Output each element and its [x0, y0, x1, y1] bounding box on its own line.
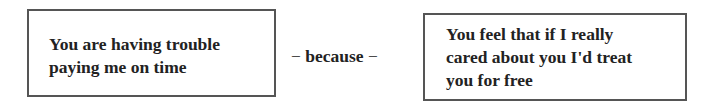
left-box-line-1: You are having trouble [49, 33, 274, 56]
right-box-line-3: you for free [446, 69, 685, 92]
right-box-line-1: You feel that if I really [446, 23, 685, 46]
statement-box-left: You are having trouble paying me on time [27, 9, 276, 97]
right-dash: − [368, 46, 378, 66]
statement-box-right: You feel that if I really cared about yo… [423, 13, 687, 101]
right-box-line-2: cared about you I'd treat [446, 46, 685, 69]
because-connector: − because − [291, 45, 378, 68]
connector-label: because [305, 46, 363, 66]
left-dash: − [291, 46, 301, 66]
left-box-line-2: paying me on time [49, 56, 274, 79]
